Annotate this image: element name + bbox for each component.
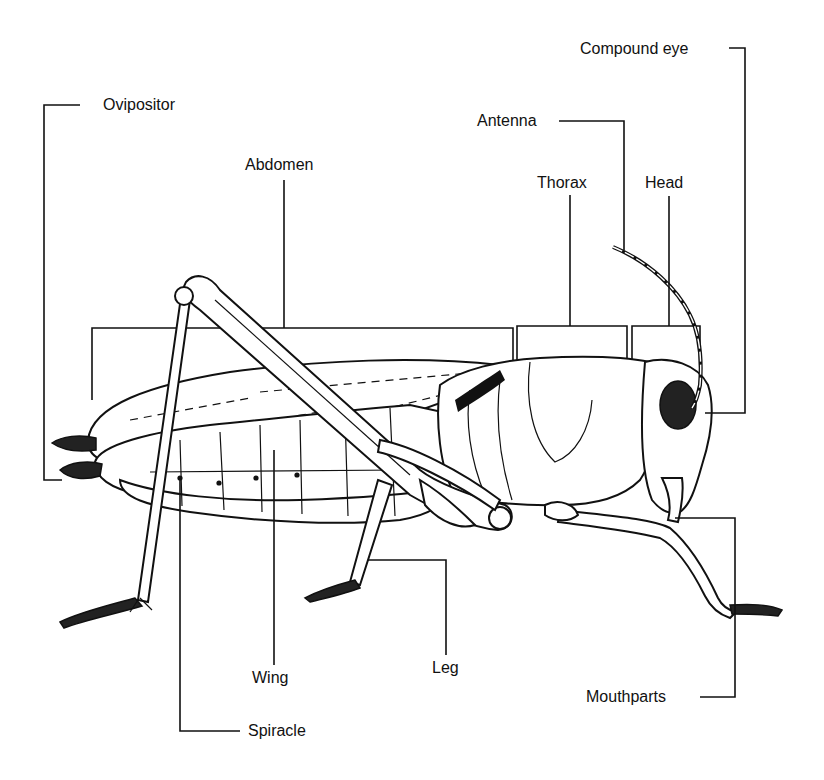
ovipositor-shape: [52, 436, 102, 479]
label-compound-eye: Compound eye: [580, 41, 689, 57]
label-thorax: Thorax: [537, 175, 587, 191]
label-spiracle: Spiracle: [248, 723, 306, 739]
label-abdomen: Abdomen: [245, 157, 314, 173]
label-head: Head: [645, 175, 683, 191]
grasshopper-illustration: [0, 0, 824, 780]
label-mouthparts: Mouthparts: [586, 689, 666, 705]
front-leg-shape: [545, 502, 782, 618]
grasshopper-anatomy-diagram: Compound eye Ovipositor Antenna Abdomen …: [0, 0, 824, 780]
label-wing: Wing: [252, 670, 288, 686]
label-ovipositor: Ovipositor: [103, 97, 175, 113]
label-antenna: Antenna: [477, 113, 537, 129]
label-leg: Leg: [432, 660, 459, 676]
